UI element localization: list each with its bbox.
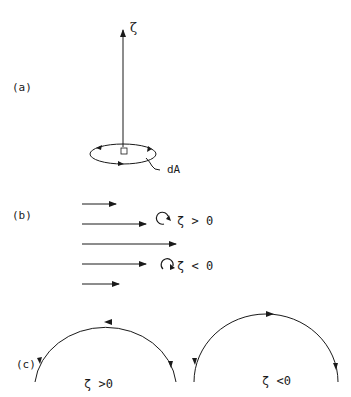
vorticity-vector-label: ζ <box>130 20 137 35</box>
positive-vorticity-label: ζ > 0 <box>177 214 213 228</box>
ccw-rotation-arrowhead-icon <box>166 215 171 221</box>
vorticity-diagram: (a) ζ dA (b) ζ > 0 ζ < 0 (c) ζ >0 <box>0 0 351 397</box>
area-element-square <box>121 148 127 154</box>
left-arc-trough <box>35 327 176 382</box>
left-arc-top-arrow-icon <box>104 319 112 325</box>
panel-a-label: (a) <box>12 81 32 94</box>
panel-b: (b) ζ > 0 ζ < 0 <box>12 204 213 284</box>
panel-c: (c) ζ >0 ζ <0 <box>16 311 338 391</box>
ccw-rotation-icon <box>156 212 168 224</box>
panel-c-label: (c) <box>16 358 36 371</box>
right-arc-label: ζ <0 <box>262 374 291 388</box>
area-label: dA <box>167 163 181 176</box>
area-leader-line <box>146 158 160 170</box>
right-arc-top-arrow-icon <box>266 311 274 317</box>
cw-rotation-arrowhead-icon <box>170 264 175 270</box>
right-arc-ridge <box>194 314 338 382</box>
panel-b-label: (b) <box>12 209 32 222</box>
left-arc-label: ζ >0 <box>84 377 113 391</box>
panel-a: (a) ζ dA <box>12 20 181 176</box>
negative-vorticity-label: ζ < 0 <box>177 259 213 273</box>
